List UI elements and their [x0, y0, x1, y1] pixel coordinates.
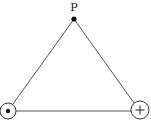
plus-charge-icon	[131, 101, 149, 119]
edge-left	[13, 19, 74, 104]
apex-label: P	[70, 1, 78, 14]
dot-charge-icon	[0, 103, 16, 119]
edge-right	[74, 19, 134, 103]
triangle-diagram: P	[0, 0, 151, 123]
apex-point	[71, 16, 76, 21]
